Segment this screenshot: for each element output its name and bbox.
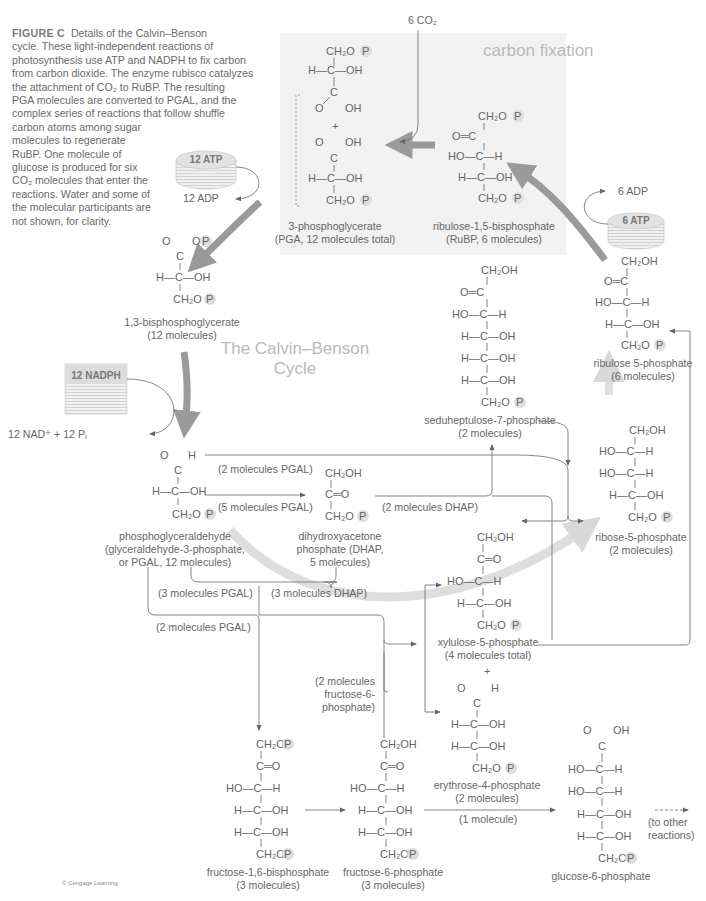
- flow-connectors: [148, 331, 690, 810]
- svg-text:CH₂O: CH₂O: [621, 339, 650, 351]
- svg-text:O═C: O═C: [452, 130, 476, 142]
- svg-text:P: P: [663, 511, 670, 523]
- svg-text:CH₂O: CH₂O: [472, 762, 501, 774]
- svg-text:P: P: [627, 852, 634, 864]
- svg-text:CH₂O: CH₂O: [628, 511, 657, 523]
- svg-text:(2 molecules): (2 molecules): [455, 792, 519, 804]
- svg-text:CH₂O: CH₂O: [173, 293, 202, 305]
- svg-text:P: P: [362, 194, 369, 206]
- svg-text:O: O: [315, 102, 324, 114]
- svg-text:glucose-6-phosphate: glucose-6-phosphate: [552, 870, 651, 882]
- svg-text:fructose-6-phosphate: fructose-6-phosphate: [343, 866, 443, 878]
- svg-text:O: O: [315, 136, 324, 148]
- svg-text:or PGAL, 12 molecules): or PGAL, 12 molecules): [119, 556, 231, 568]
- flow-label-dhap-2: (2 molecules DHAP): [382, 501, 478, 513]
- svg-text:O═C: O═C: [604, 275, 628, 287]
- svg-text:CH₂O: CH₂O: [256, 848, 285, 860]
- svg-text:H—C—OH: H—C—OH: [577, 830, 631, 842]
- svg-text:HO—C—H: HO—C—H: [568, 785, 622, 797]
- svg-text:C═O: C═O: [477, 553, 502, 565]
- svg-text:C: C: [598, 740, 606, 752]
- svg-text:P: P: [359, 510, 366, 522]
- svg-text:H—C—OH: H—C—OH: [461, 330, 515, 342]
- molecule-ribulose-5-phosphate: CH₂OH O═C HO—C—H H—C—OH CH₂O P ribulose …: [594, 255, 693, 382]
- svg-text:+: +: [484, 665, 490, 677]
- svg-text:C═O: C═O: [325, 488, 350, 500]
- svg-text:H—C—OH: H—C—OH: [152, 485, 206, 497]
- svg-text:(4 molecules total): (4 molecules total): [445, 649, 532, 661]
- molecule-fructose-6-phosphate: CH₂OH C═O HO—C—H H—C—OH H—C—OH CH₂O P fr…: [343, 738, 443, 891]
- svg-text:P: P: [512, 619, 519, 631]
- svg-text:5 molecules): 5 molecules): [310, 556, 370, 568]
- svg-text:CH₂O: CH₂O: [477, 619, 506, 631]
- svg-text:H—C—OH: H—C—OH: [451, 740, 505, 752]
- svg-text:C: C: [330, 152, 338, 164]
- svg-text:CH₂O: CH₂O: [380, 848, 409, 860]
- molecule-xylulose-5-phosphate: CH₂OH C═O HO—C—H H—C—OH CH₂O P xylulose-…: [438, 531, 539, 677]
- svg-text:seduheptulose-7-phosphate: seduheptulose-7-phosphate: [424, 414, 555, 426]
- svg-text:ribulose 5-phosphate: ribulose 5-phosphate: [594, 357, 693, 369]
- svg-text:phosphate (DHAP,: phosphate (DHAP,: [297, 543, 384, 555]
- svg-text:OH: OH: [613, 724, 630, 736]
- flow-label-pgal-5: (5 molecules PGAL): [218, 501, 313, 513]
- svg-text:P: P: [514, 110, 521, 122]
- svg-text:H—C—OH: H—C—OH: [458, 171, 512, 183]
- svg-text:CH₂O: CH₂O: [598, 852, 627, 864]
- svg-text:P: P: [516, 396, 523, 408]
- svg-text:H—C—OH: H—C—OH: [605, 318, 659, 330]
- svg-text:C═O: C═O: [256, 760, 281, 772]
- cycle-title-line1: The Calvin–Benson: [221, 339, 369, 358]
- svg-text:HO—C—H: HO—C—H: [226, 782, 280, 794]
- svg-text:O: O: [583, 724, 592, 736]
- svg-text:dihydroxyacetone: dihydroxyacetone: [298, 530, 381, 542]
- flow-label-f6p-2-line2: fructose-6-: [324, 688, 375, 700]
- svg-text:O═C: O═C: [460, 286, 484, 298]
- svg-text:C: C: [473, 697, 481, 709]
- co2-input-label: 6 CO₂: [408, 14, 437, 26]
- bpg-to-pgal-arrow: [184, 352, 187, 428]
- molecule-ribose-5-phosphate: CH₂OH HO—C—H HO—C—H H—C—OH CH₂O P ribose…: [595, 424, 686, 556]
- svg-text:O: O: [162, 235, 171, 247]
- svg-text:OH: OH: [345, 102, 362, 114]
- svg-text:P: P: [202, 235, 209, 247]
- atp-12-label: 12 ATP: [190, 154, 223, 165]
- svg-text:phosphoglyceraldehyde: phosphoglyceraldehyde: [119, 530, 231, 542]
- svg-text:H—C—OH: H—C—OH: [451, 718, 505, 730]
- svg-text:CH₂OH: CH₂OH: [629, 424, 666, 436]
- svg-text:CH₂OH: CH₂OH: [477, 531, 514, 543]
- svg-text:(2 molecules): (2 molecules): [458, 427, 522, 439]
- svg-text:HO—C—H: HO—C—H: [599, 445, 653, 457]
- cycle-title-line2: Cycle: [274, 359, 317, 378]
- flow-label-dhap-3: (3 molecules DHAP): [271, 587, 367, 599]
- svg-text:CH₂O: CH₂O: [172, 508, 201, 520]
- svg-text:O: O: [457, 682, 466, 694]
- svg-text:HO—C—H: HO—C—H: [568, 763, 622, 775]
- svg-text:CH₂O: CH₂O: [326, 194, 355, 206]
- atp-12-disk: 12 ATP: [176, 151, 236, 189]
- svg-text:HO—C—H: HO—C—H: [599, 467, 653, 479]
- svg-text:CH₂O: CH₂O: [325, 510, 354, 522]
- molecule-sedoheptulose-7-phosphate: CH₂OH O═C HO—C—H H—C—OH H—C—OH H—C—OH CH…: [424, 264, 555, 439]
- svg-text:H—C—OH: H—C—OH: [156, 271, 210, 283]
- svg-text:CH₂OH: CH₂OH: [380, 738, 417, 750]
- atp-to-adp-arrow: [236, 167, 259, 199]
- svg-text:P: P: [409, 848, 416, 860]
- flow-label-f6p-2-line3: phosphate): [322, 701, 375, 713]
- nadph-12-block: 12 NADPH: [65, 364, 127, 414]
- copyright: © Cengage Learning: [62, 880, 117, 886]
- flow-label-f6p-2-line1: (2 molecules: [315, 675, 375, 687]
- svg-text:H—C—OH: H—C—OH: [358, 804, 412, 816]
- svg-text:C: C: [176, 250, 184, 262]
- svg-text:H—C—OH: H—C—OH: [457, 597, 511, 609]
- svg-text:HO—C—H: HO—C—H: [595, 296, 649, 308]
- svg-text:CH₂OH: CH₂OH: [621, 255, 658, 267]
- svg-text:(2 molecules): (2 molecules): [609, 544, 673, 556]
- svg-text:H—C—OH: H—C—OH: [308, 64, 362, 76]
- svg-text:xylulose-5-phosphate: xylulose-5-phosphate: [438, 636, 539, 648]
- svg-text:C: C: [330, 86, 338, 98]
- svg-text:HO—C—H: HO—C—H: [350, 782, 404, 794]
- adp-12-label: 12 ADP: [183, 192, 219, 204]
- molecule-erythrose-4-phosphate: O H C H—C—OH H—C—OH CH₂O P erythrose-4-p…: [434, 682, 541, 804]
- svg-text:OH: OH: [345, 136, 362, 148]
- svg-text:P: P: [284, 848, 291, 860]
